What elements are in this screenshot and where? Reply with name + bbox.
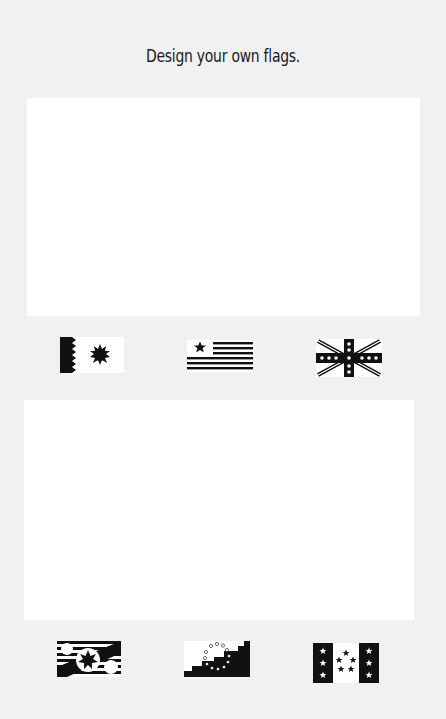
page-title: Design your own flags. xyxy=(40,46,406,66)
stripes-single-star-flag xyxy=(187,340,253,372)
union-jack-stars-flag xyxy=(316,339,382,377)
drawing-area-2[interactable] xyxy=(24,400,414,620)
stepped-ring-of-dots-flag xyxy=(184,641,250,677)
serrated-edge-sun-flag xyxy=(60,337,124,373)
vertical-bands-stars-flag xyxy=(313,643,379,683)
diagonal-stars-flag xyxy=(57,641,121,677)
drawing-area-1[interactable] xyxy=(27,98,420,316)
